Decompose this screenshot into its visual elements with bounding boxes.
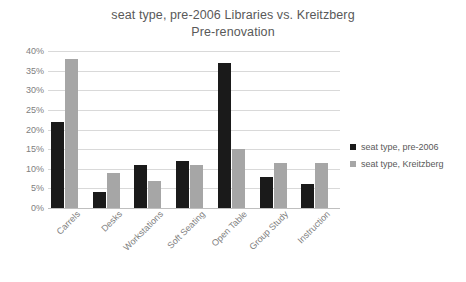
plot-area — [48, 51, 340, 208]
bar-group — [215, 51, 257, 208]
y-axis-tick-label: 20% — [8, 125, 44, 135]
bar — [274, 163, 287, 208]
legend-swatch-icon — [350, 144, 356, 150]
chart-legend: seat type, pre-2006seat type, Kreitzberg — [350, 142, 444, 176]
legend-label: seat type, pre-2006 — [361, 142, 439, 152]
x-axis-tick-label: Workstations — [122, 209, 166, 253]
bar — [107, 173, 120, 208]
legend-label: seat type, Kreitzberg — [361, 159, 444, 169]
bar — [301, 184, 314, 208]
x-axis-tick-label: Soft Seating — [165, 209, 207, 251]
chart-title-line-1: seat type, pre-2006 Libraries vs. Kreitz… — [0, 7, 466, 24]
bar-group — [90, 51, 132, 208]
bar-group — [131, 51, 173, 208]
y-axis: 0%5%10%15%20%25%30%35%40% — [8, 51, 44, 208]
bar — [260, 177, 273, 208]
y-axis-tick-label: 30% — [8, 85, 44, 95]
y-axis-tick-label: 5% — [8, 183, 44, 193]
bar — [218, 63, 231, 208]
legend-item[interactable]: seat type, pre-2006 — [350, 142, 444, 152]
bar-group — [257, 51, 299, 208]
bar-group — [298, 51, 340, 208]
bar — [51, 122, 64, 208]
x-axis: CarrelsDesksWorkstationsSoft SeatingOpen… — [48, 209, 340, 279]
y-axis-tick-label: 15% — [8, 144, 44, 154]
bar — [315, 163, 328, 208]
bar — [65, 59, 78, 208]
bar — [176, 161, 189, 208]
y-axis-tick-label: 35% — [8, 66, 44, 76]
y-axis-tick-label: 0% — [8, 203, 44, 213]
legend-item[interactable]: seat type, Kreitzberg — [350, 159, 444, 169]
bar — [232, 149, 245, 208]
bar — [190, 165, 203, 208]
bar — [93, 192, 106, 208]
bar-chart: seat type, pre-2006 Libraries vs. Kreitz… — [0, 0, 466, 282]
x-axis-tick-label: Instruction — [296, 209, 332, 245]
legend-swatch-icon — [350, 161, 356, 167]
y-axis-tick-label: 40% — [8, 46, 44, 56]
chart-title: seat type, pre-2006 Libraries vs. Kreitz… — [0, 7, 466, 40]
chart-title-line-2: Pre-renovation — [0, 24, 466, 41]
y-axis-tick-label: 25% — [8, 105, 44, 115]
bar-group — [173, 51, 215, 208]
bar — [134, 165, 147, 208]
x-axis-tick-label: Carrels — [54, 209, 82, 237]
x-axis-tick-label: Group Study — [248, 209, 291, 252]
x-axis-tick-label: Desks — [99, 209, 124, 234]
y-axis-tick-label: 10% — [8, 164, 44, 174]
bars-layer — [48, 51, 340, 208]
bar-group — [48, 51, 90, 208]
x-axis-tick-label: Open Table — [209, 209, 249, 249]
bar — [148, 181, 161, 208]
